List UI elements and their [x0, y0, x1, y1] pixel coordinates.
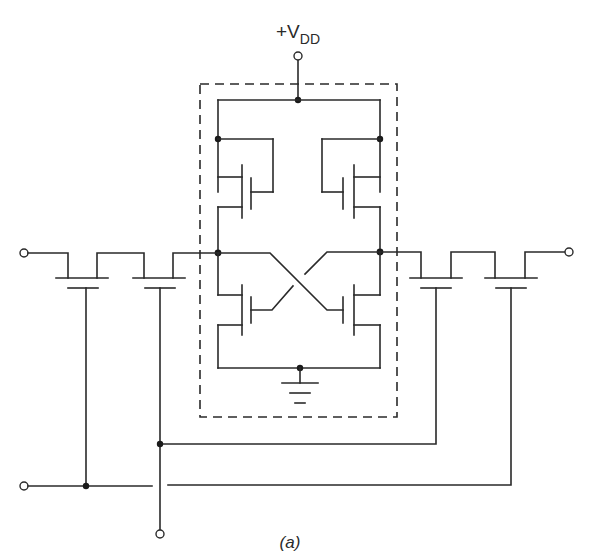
figure-caption: (a)	[280, 533, 301, 551]
vdd-label-main: +V	[276, 21, 300, 42]
bit-left-terminal	[20, 249, 28, 257]
svg-text:+VDD: +VDD	[276, 21, 320, 47]
supply-rail	[215, 100, 383, 192]
access-transistor-left-1-gate	[68, 288, 98, 486]
sram-cell-schematic: +VDD	[0, 0, 590, 551]
pmos-left-transistor	[218, 139, 273, 253]
vdd-label-sub: DD	[300, 31, 320, 47]
nmos-right-transistor	[343, 252, 380, 368]
word-line-b-terminal	[156, 530, 164, 538]
word-line-b	[156, 530, 164, 538]
vdd-label: +VDD	[276, 21, 320, 47]
word-line-a	[20, 482, 152, 490]
access-transistor-right-2-gate	[168, 288, 526, 485]
vdd-terminal	[294, 52, 302, 103]
bit-line-left	[20, 249, 218, 278]
nmos-left-transistor	[218, 253, 251, 368]
bit-line-right	[380, 248, 573, 278]
pmos-right-transistor	[322, 139, 380, 252]
bit-right-terminal	[565, 248, 573, 256]
word-line-a-terminal	[20, 482, 28, 490]
ground-symbol	[218, 365, 380, 403]
access-transistor-left-2-gate	[145, 288, 175, 530]
